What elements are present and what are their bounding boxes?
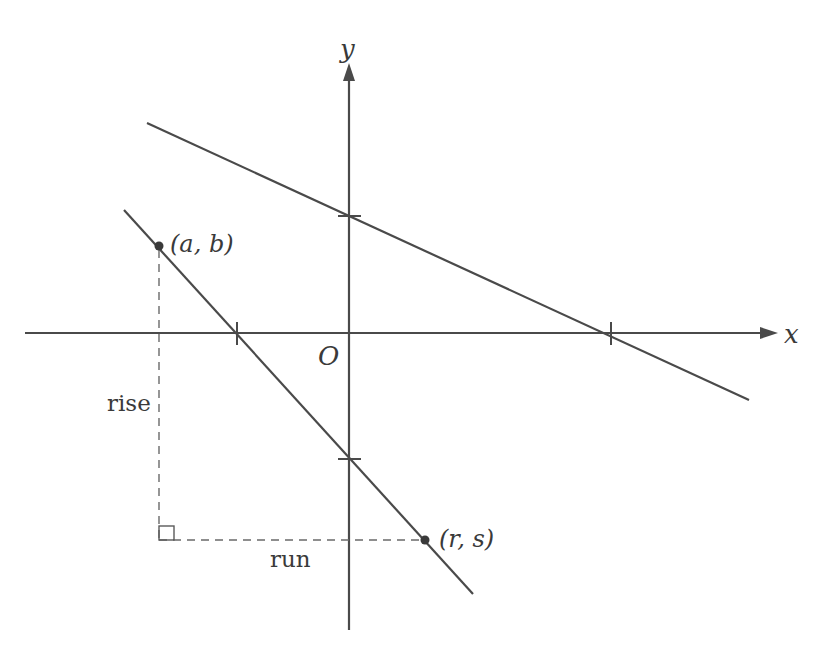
y-axis-label: y <box>340 36 355 62</box>
x-axis-arrow-icon <box>760 327 778 339</box>
run-label: run <box>270 548 311 571</box>
origin-label: O <box>318 343 339 369</box>
point-a-b-dot <box>155 242 164 251</box>
rise-label: rise <box>107 392 151 415</box>
point-r-s-label: (r, s) <box>439 527 494 551</box>
x-axis-label: x <box>784 321 799 347</box>
right-angle-marker <box>159 526 174 540</box>
point-a-b-label: (a, b) <box>170 232 234 256</box>
slope-diagram: y x O (a, b) (r, s) rise run <box>0 0 825 659</box>
upper-line <box>147 123 749 400</box>
point-r-s-dot <box>421 536 430 545</box>
y-axis-arrow-icon <box>343 63 355 81</box>
coordinate-plane <box>0 0 825 659</box>
lower-line <box>124 210 473 594</box>
